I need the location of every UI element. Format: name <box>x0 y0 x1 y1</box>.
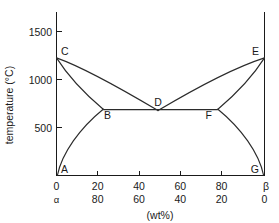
phase-diagram-plot: 1500 1000 500 0 20 40 60 80 β α 80 60 40… <box>0 0 279 223</box>
y-tick-label-500: 500 <box>34 122 52 134</box>
y-tick-label-1000: 1000 <box>29 74 53 86</box>
x-tick-label-top-beta: β <box>263 180 269 192</box>
y-axis-title: temperature (°C) <box>3 66 15 144</box>
point-label-C: C <box>61 45 69 57</box>
x-tick-label-bottom-40: 40 <box>174 193 186 205</box>
point-label-B: B <box>104 109 111 121</box>
point-label-E: E <box>252 45 259 57</box>
x-tick-label-bottom-0: 0 <box>262 193 268 205</box>
x-tick-label-top-40: 40 <box>133 180 145 192</box>
x-tick-label-top-0: 0 <box>54 180 60 192</box>
x-tick-label-bottom-60: 60 <box>133 193 145 205</box>
phase-diagram-figure: 1500 1000 500 0 20 40 60 80 β α 80 60 40… <box>0 0 279 223</box>
curve-liquidus-right <box>158 58 265 111</box>
y-tick-label-1500: 1500 <box>29 26 53 38</box>
curve-solidus-left <box>57 58 104 109</box>
x-tick-label-bottom-20: 20 <box>216 193 228 205</box>
x-tick-label-bottom-80: 80 <box>92 193 104 205</box>
x-tick-label-top-20: 20 <box>92 180 104 192</box>
x-tick-label-top-80: 80 <box>216 180 228 192</box>
point-label-F: F <box>206 109 212 121</box>
point-label-D: D <box>154 96 162 108</box>
curve-liquidus-left <box>57 58 159 111</box>
x-tick-label-top-60: 60 <box>174 180 186 192</box>
x-tick-label-bottom-alpha: α <box>54 194 60 205</box>
point-label-A: A <box>61 163 68 175</box>
point-label-G: G <box>251 163 259 175</box>
x-axis-title: (wt%) <box>147 209 174 221</box>
curve-solidus-right <box>218 58 265 109</box>
